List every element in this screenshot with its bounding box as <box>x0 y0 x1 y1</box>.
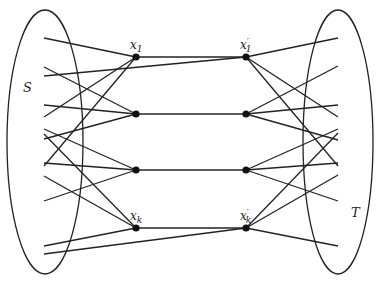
edge-x3p-T <box>246 170 338 201</box>
edge-xkp-T <box>246 133 338 228</box>
node-x2p <box>242 110 249 117</box>
bipartite-graph-diagram: STx1xkx′1x′k <box>0 0 382 287</box>
edge-xkp-T <box>246 175 338 228</box>
edge-xkp-T <box>246 228 338 246</box>
node-x1-label: x1 <box>130 38 143 54</box>
edge-x2p-T <box>246 114 338 140</box>
set-T-label: T <box>351 205 361 220</box>
edge-S-xkp <box>44 228 246 254</box>
node-x3 <box>132 166 139 173</box>
set-S-label: S <box>23 80 32 95</box>
node-xk <box>132 224 139 231</box>
edge-S-x1 <box>44 57 136 117</box>
node-x3p <box>242 166 249 173</box>
edge-x1p-T <box>246 38 338 57</box>
node-xkp <box>242 224 249 231</box>
node-x1p-label: x′1 <box>240 37 252 54</box>
node-xkp-label: x′k <box>240 208 251 225</box>
edges <box>44 38 338 254</box>
edge-S-xk <box>44 134 136 228</box>
edge-S-x1 <box>44 38 136 57</box>
node-x1p <box>242 53 249 60</box>
set-T-ellipse <box>303 10 373 274</box>
node-xk-label: xk <box>130 209 142 225</box>
edge-S-xk <box>44 176 136 228</box>
edge-S-x3 <box>44 170 136 201</box>
edge-x1p-T <box>246 57 338 117</box>
node-x2 <box>132 110 139 117</box>
matching-nodes <box>132 53 249 231</box>
node-x1 <box>132 53 139 60</box>
